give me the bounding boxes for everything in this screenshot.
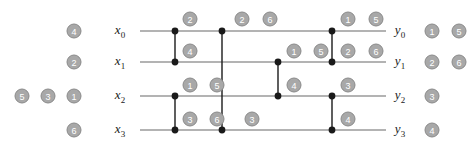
output-y1-v1: 2 (425, 55, 440, 70)
stage-value-above-x0-e: 5 (369, 12, 384, 27)
stage-value-mid-12-d: 3 (341, 78, 356, 93)
input-wire-label-x0: x0 (115, 22, 125, 40)
stage-value-mid-01-c: 5 (314, 44, 329, 59)
stage-value-mid-01-d: 2 (341, 44, 356, 59)
input-wire-label-x2: x2 (115, 87, 125, 105)
input-x2-v3: 1 (67, 89, 82, 104)
stage-value-mid-23-c: 3 (245, 112, 260, 127)
comparator-4-bottom-node (275, 93, 282, 100)
stage-value-mid-12-b: 5 (210, 78, 225, 93)
comparison-network-diagram: x0x1x2x3y0y1y2y3 42531615263422615415261… (0, 0, 473, 152)
comparator-4-top-node (275, 59, 282, 66)
output-y1-v2: 6 (452, 55, 467, 70)
input-x2-v1: 5 (15, 89, 30, 104)
stage-value-mid-01-b: 1 (287, 44, 302, 59)
stage-value-above-x0-a: 2 (183, 12, 198, 27)
stage-value-mid-01-e: 6 (369, 44, 384, 59)
stage-value-above-x0-d: 1 (341, 12, 356, 27)
stage-value-above-x0-c: 6 (263, 12, 278, 27)
input-wire-label-x1: x1 (115, 53, 125, 71)
input-wire-label-x3: x3 (115, 121, 125, 139)
comparator-6-bottom-node (329, 127, 336, 134)
stage-value-mid-12-a: 1 (183, 78, 198, 93)
comparator-5-top-node (329, 28, 336, 35)
comparator-5-bottom-node (329, 59, 336, 66)
input-x1-v1: 2 (67, 55, 82, 70)
comparator-3-bottom-node (219, 127, 226, 134)
output-wire-label-y0: y0 (395, 22, 405, 40)
stage-value-mid-23-b: 6 (210, 112, 225, 127)
input-x2-v2: 3 (41, 89, 56, 104)
comparator-2-top-node (172, 93, 179, 100)
comparator-2-bottom-node (172, 127, 179, 134)
output-y3-v1: 4 (425, 123, 440, 138)
comparator-1-bottom-node (172, 59, 179, 66)
comparator-1-top-node (172, 28, 179, 35)
stage-value-mid-23-d: 4 (341, 112, 356, 127)
output-y0-v1: 1 (425, 24, 440, 39)
output-wire-label-y2: y2 (395, 87, 405, 105)
comparator-3-top-node (219, 28, 226, 35)
stage-value-mid-12-c: 4 (287, 78, 302, 93)
output-wire-label-y1: y1 (395, 53, 405, 71)
input-x0-v1: 4 (67, 24, 82, 39)
stage-value-mid-01-a: 4 (183, 44, 198, 59)
stage-value-above-x0-b: 2 (235, 12, 250, 27)
stage-value-mid-23-a: 3 (183, 112, 198, 127)
input-x3-v1: 6 (67, 123, 82, 138)
output-wire-label-y3: y3 (395, 121, 405, 139)
comparator-6-top-node (329, 93, 336, 100)
output-y0-v2: 5 (452, 24, 467, 39)
output-y2-v1: 3 (425, 89, 440, 104)
